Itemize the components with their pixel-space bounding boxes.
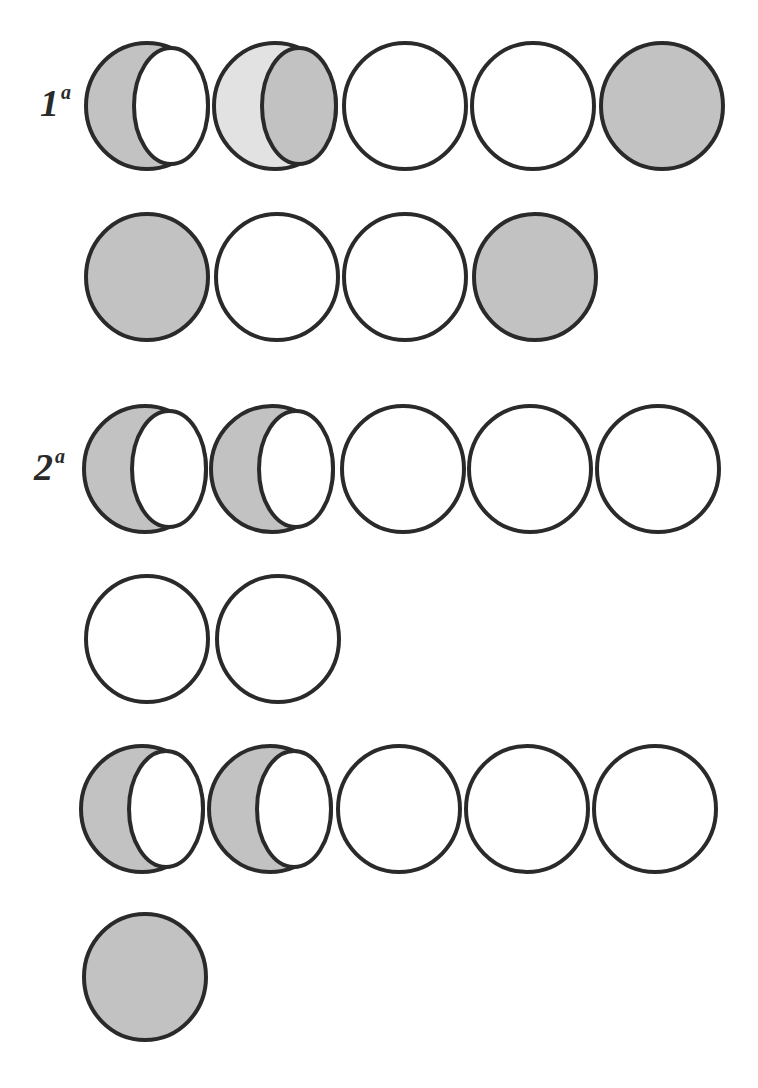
empty-circle [342,406,464,532]
crescent-circle [211,406,333,532]
crescent-circle [214,43,336,169]
crescent-circle [84,406,206,532]
empty-circle [217,576,339,702]
empty-circle [594,746,716,872]
filled-circle [84,914,206,1040]
row-1 [86,43,723,169]
row-5 [81,746,716,872]
circle-diagram [0,0,758,1088]
empty-circle [216,214,338,340]
filled-circle [86,214,208,340]
crescent-circle [209,746,331,872]
empty-circle [344,214,466,340]
empty-circle [597,406,719,532]
row-4 [86,576,339,702]
crescent-circle [81,746,203,872]
empty-circle [86,576,208,702]
empty-circle [466,746,588,872]
filled-circle [601,43,723,169]
crescent-circle [86,43,208,169]
filled-circle [474,214,596,340]
empty-circle [338,746,460,872]
empty-circle [472,43,594,169]
row-3 [84,406,719,532]
row-6 [84,914,206,1040]
empty-circle [344,43,466,169]
empty-circle [469,406,591,532]
row-2 [86,214,596,340]
